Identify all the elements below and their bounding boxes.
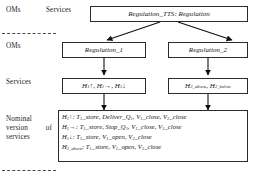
separator-dashed-bottom — [2, 170, 56, 171]
node-services-1[interactable]: H1↑, H1→, H1↓ — [62, 78, 146, 94]
nominal-line-3: H1↓: T1_store, V1_open, V2_close — [62, 133, 244, 143]
edge-root-to-regulation-1 — [107, 22, 160, 40]
nominal-line-2: H1→: T1_store, Stop_Q1, V1_close, V2_clo… — [62, 123, 244, 133]
row-label-oms-top: OMs — [6, 6, 21, 15]
row-label-services-top: Services — [46, 6, 71, 15]
node-regulation-2[interactable]: Regulation_2 — [168, 42, 248, 58]
node-regulation-tts[interactable]: Regulation_TTS: Regulation — [90, 6, 248, 22]
node-services-2[interactable]: H2_above, H2_below — [168, 78, 248, 94]
node-nominal-services[interactable]: H1↑: T1_store, Deliver_Q1, V1_close, V2_… — [58, 110, 248, 162]
row-label-services-mid: Services — [6, 78, 31, 87]
nominal-line-4: H2_above: T1_store, V1_open, V2_close — [62, 143, 244, 153]
nominal-line-1: H1↑: T1_store, Deliver_Q1, V1_close, V2_… — [62, 113, 244, 123]
edge-root-to-regulation-2 — [178, 22, 232, 40]
separator-dashed-top — [2, 33, 56, 34]
row-label-oms-mid: OMs — [6, 42, 21, 51]
diagram-canvas: OMs Services OMs Services Nominal versio… — [0, 0, 258, 179]
node-regulation-1[interactable]: Regulation_1 — [62, 42, 146, 58]
row-label-nominal-version: Nominal version of services — [6, 115, 52, 142]
